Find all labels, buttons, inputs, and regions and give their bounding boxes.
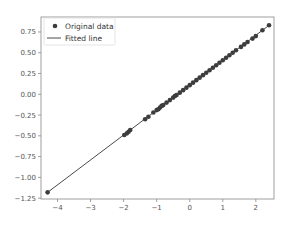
scatter-chart: −4−3−2−1012 0.750.500.250.00−0.25−0.50−0… bbox=[0, 0, 299, 226]
y-tick-label: 0.50 bbox=[20, 49, 36, 57]
x-tick-label: −4 bbox=[52, 204, 63, 212]
x-tick-label: 2 bbox=[254, 204, 258, 212]
data-point bbox=[267, 23, 272, 28]
data-point bbox=[146, 114, 151, 119]
y-tick-label: 0.25 bbox=[20, 70, 36, 78]
y-tick-label: −0.50 bbox=[15, 132, 36, 140]
y-tick-label: −0.25 bbox=[15, 112, 36, 120]
x-axis-ticks: −4−3−2−1012 bbox=[52, 199, 258, 212]
x-tick-label: 0 bbox=[187, 204, 191, 212]
legend: Original data Fitted line bbox=[44, 18, 115, 45]
data-point bbox=[245, 40, 250, 45]
data-point bbox=[234, 48, 239, 53]
x-tick-label: 1 bbox=[221, 204, 225, 212]
y-tick-label: 0.75 bbox=[20, 28, 36, 36]
x-tick-label: −1 bbox=[152, 204, 162, 212]
y-axis-ticks: 0.750.500.250.00−0.25−0.50−0.75−1.00−1.2… bbox=[15, 28, 41, 202]
y-tick-label: 0.00 bbox=[20, 91, 36, 99]
y-tick-label: −0.75 bbox=[15, 153, 36, 161]
data-point bbox=[45, 190, 50, 195]
data-point bbox=[254, 34, 259, 39]
y-tick-label: −1.25 bbox=[15, 195, 36, 203]
data-point bbox=[260, 28, 265, 33]
x-tick-label: −2 bbox=[118, 204, 128, 212]
x-tick-label: −3 bbox=[85, 204, 95, 212]
legend-label-original-data: Original data bbox=[65, 22, 114, 31]
legend-marker-original-data bbox=[53, 24, 58, 29]
legend-label-fitted-line: Fitted line bbox=[65, 34, 102, 43]
y-tick-label: −1.00 bbox=[15, 174, 36, 182]
data-point bbox=[128, 128, 133, 133]
